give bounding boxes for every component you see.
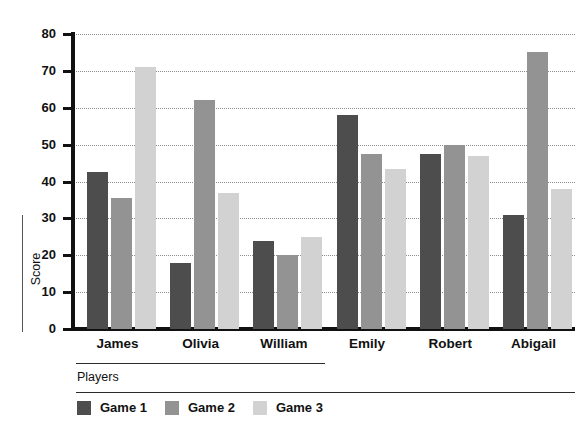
x-axis-category-label: Robert bbox=[409, 336, 492, 351]
bar[interactable] bbox=[253, 241, 274, 330]
legend-item[interactable]: Game 2 bbox=[165, 400, 235, 415]
legend-item[interactable]: Game 3 bbox=[253, 400, 323, 415]
bar-group bbox=[253, 34, 322, 329]
y-axis-tick-label: 40 bbox=[16, 175, 56, 188]
bar[interactable] bbox=[301, 237, 322, 329]
y-axis-tick-label: 10 bbox=[16, 285, 56, 298]
bar-group bbox=[420, 34, 489, 329]
x-axis-title: Players bbox=[77, 370, 119, 384]
bar[interactable] bbox=[277, 255, 298, 329]
x-axis-category-label: James bbox=[76, 336, 159, 351]
bar[interactable] bbox=[551, 189, 572, 329]
y-axis-tick bbox=[63, 107, 71, 110]
y-axis-tick bbox=[63, 217, 71, 220]
y-axis-tick bbox=[63, 70, 71, 73]
bar-chart: Score 01020304050607080 JamesOliviaWilli… bbox=[0, 0, 587, 440]
y-axis-tick bbox=[63, 144, 71, 147]
legend-swatch bbox=[165, 401, 179, 415]
bar[interactable] bbox=[194, 100, 215, 329]
y-axis-tick bbox=[63, 33, 71, 36]
x-axis-category-label: Abigail bbox=[492, 336, 575, 351]
bar[interactable] bbox=[420, 154, 441, 329]
legend: Game 1Game 2Game 3 bbox=[77, 400, 341, 415]
bar[interactable] bbox=[218, 193, 239, 329]
bar[interactable] bbox=[503, 215, 524, 329]
y-axis-tick-label: 0 bbox=[16, 322, 56, 335]
x-axis-category-label: Emily bbox=[326, 336, 409, 351]
y-axis-tick-label: 50 bbox=[16, 138, 56, 151]
bar[interactable] bbox=[361, 154, 382, 329]
y-axis-title: Score bbox=[29, 217, 43, 321]
y-axis-title-container: Score bbox=[26, 218, 44, 328]
bar-group bbox=[87, 34, 156, 329]
bar[interactable] bbox=[385, 169, 406, 329]
divider-upper bbox=[76, 363, 325, 364]
y-axis-title-rule bbox=[22, 215, 23, 332]
y-axis-tick-label: 30 bbox=[16, 211, 56, 224]
y-axis-tick-label: 20 bbox=[16, 248, 56, 261]
bar[interactable] bbox=[87, 172, 108, 329]
y-axis-tick-label: 60 bbox=[16, 101, 56, 114]
bar[interactable] bbox=[170, 263, 191, 329]
y-axis-tick bbox=[63, 181, 71, 184]
x-axis-category-label: William bbox=[242, 336, 325, 351]
legend-label: Game 2 bbox=[188, 400, 235, 415]
bar-group bbox=[337, 34, 406, 329]
legend-label: Game 3 bbox=[276, 400, 323, 415]
legend-label: Game 1 bbox=[100, 400, 147, 415]
y-axis-tick-label: 80 bbox=[16, 27, 56, 40]
y-axis-tick bbox=[63, 254, 71, 257]
x-axis-category-label: Olivia bbox=[159, 336, 242, 351]
legend-item[interactable]: Game 1 bbox=[77, 400, 147, 415]
y-axis-line bbox=[71, 32, 75, 331]
bar[interactable] bbox=[337, 115, 358, 329]
y-axis-tick bbox=[63, 328, 71, 331]
y-axis-tick-label: 70 bbox=[16, 64, 56, 77]
plot-area bbox=[76, 34, 575, 329]
y-axis-tick bbox=[63, 291, 71, 294]
bar-group bbox=[170, 34, 239, 329]
bar[interactable] bbox=[111, 198, 132, 329]
bar-group bbox=[503, 34, 572, 329]
bar[interactable] bbox=[135, 67, 156, 329]
bar[interactable] bbox=[468, 156, 489, 329]
bar[interactable] bbox=[527, 52, 548, 329]
legend-swatch bbox=[253, 401, 267, 415]
divider-lower bbox=[76, 392, 575, 393]
legend-swatch bbox=[77, 401, 91, 415]
bar[interactable] bbox=[444, 145, 465, 329]
